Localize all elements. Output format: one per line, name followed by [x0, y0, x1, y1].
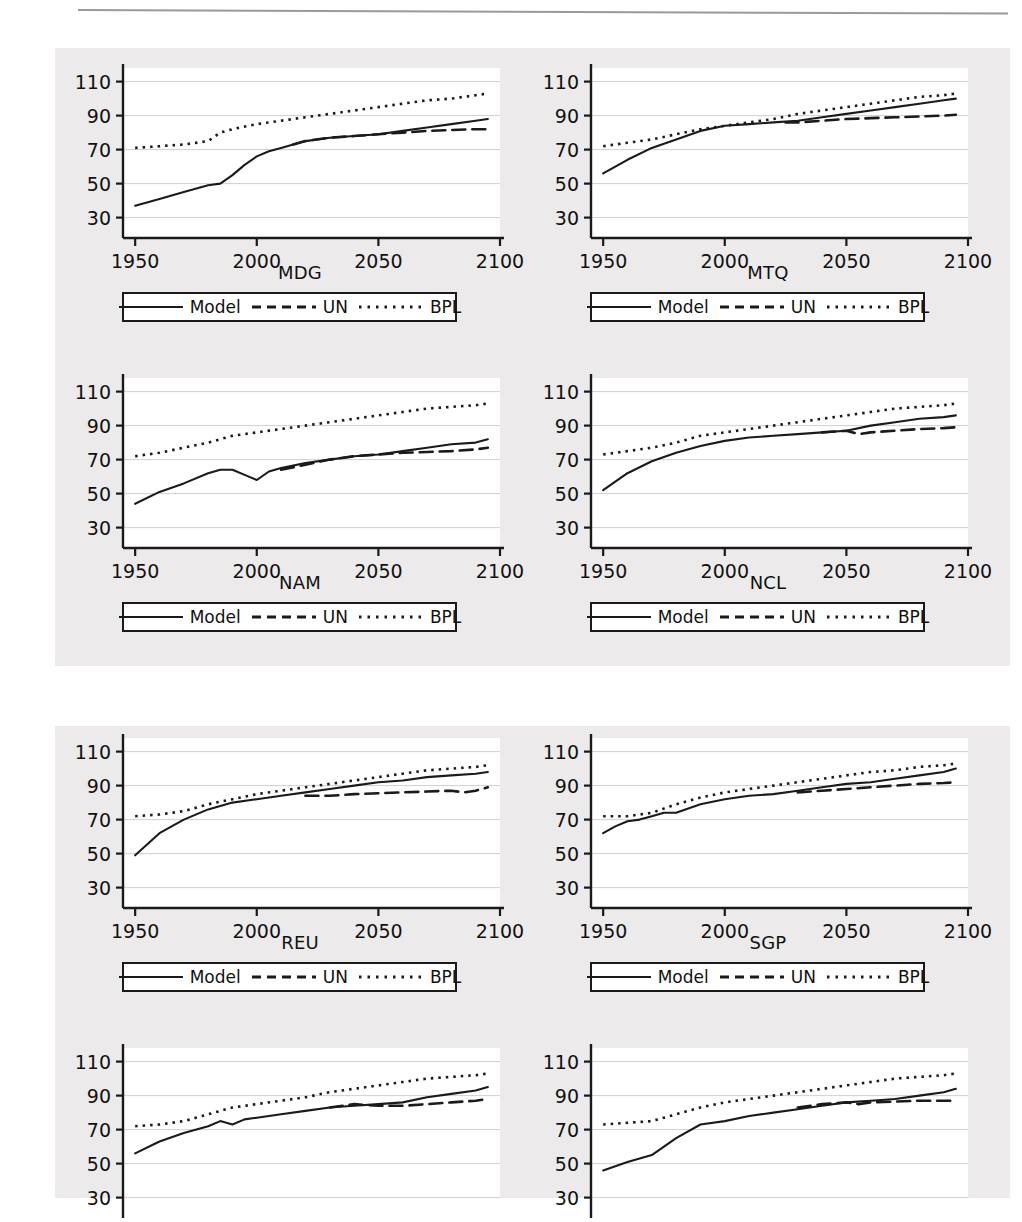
- page-header-rule: [78, 9, 1008, 15]
- legend-entry-bpl: BPL: [821, 969, 934, 986]
- legend-entry-un: UN: [714, 969, 821, 986]
- y-tick-label: 90: [555, 1086, 579, 1105]
- dotted-line-swatch: [358, 301, 424, 313]
- y-tick-label: 110: [543, 1052, 579, 1071]
- legend-label: BPL: [430, 299, 461, 316]
- y-tick-label: 110: [543, 382, 579, 401]
- y-tick-label: 90: [555, 416, 579, 435]
- figure-group-top: 110907050301950200020502100MDGModelUNBPL…: [55, 48, 1010, 666]
- y-tick-label: 90: [87, 1086, 111, 1105]
- legend-label: BPL: [898, 969, 929, 986]
- chart-legend: ModelUNBPL: [122, 292, 457, 322]
- y-tick-label: 110: [75, 1052, 111, 1071]
- solid-line-swatch: [586, 971, 652, 983]
- y-tick-label: 70: [555, 810, 579, 829]
- legend-label: Model: [190, 969, 241, 986]
- legend-entry-bpl: BPL: [353, 299, 466, 316]
- y-tick-label: 30: [555, 878, 579, 897]
- y-tick-label: 70: [555, 140, 579, 159]
- chart-legend: ModelUNBPL: [122, 602, 457, 632]
- legend-label: UN: [791, 969, 816, 986]
- chart-panel-mtq: 110907050301950200020502100MTQModelUNBPL: [533, 60, 1003, 308]
- y-tick-label: 50: [87, 1154, 111, 1173]
- chart-legend: ModelUNBPL: [122, 962, 457, 992]
- x-axis-tick-labels: 1950200020502100: [533, 548, 1003, 572]
- y-tick-label: 70: [555, 1120, 579, 1139]
- solid-line-swatch: [118, 301, 184, 313]
- dotted-line-swatch: [358, 971, 424, 983]
- legend-label: BPL: [898, 609, 929, 626]
- y-tick-label: 30: [87, 518, 111, 537]
- legend-entry-model: Model: [113, 969, 246, 986]
- y-tick-label: 30: [555, 518, 579, 537]
- x-axis-tick-labels: 1950200020502100: [65, 908, 535, 932]
- x-axis-tick-labels: 1950200020502100: [65, 548, 535, 572]
- legend-label: BPL: [430, 969, 461, 986]
- legend-entry-model: Model: [113, 299, 246, 316]
- panel-title: NCL: [533, 572, 1003, 593]
- legend-label: UN: [323, 609, 348, 626]
- dotted-line-swatch: [826, 611, 892, 623]
- legend-label: Model: [190, 609, 241, 626]
- x-axis-tick-labels: 1950200020502100: [533, 908, 1003, 932]
- y-axis-tick-labels: 11090705030: [65, 730, 535, 935]
- legend-entry-model: Model: [581, 609, 714, 626]
- dotted-line-swatch: [826, 971, 892, 983]
- legend-label: Model: [658, 609, 709, 626]
- dashed-line-swatch: [251, 971, 317, 983]
- y-tick-label: 90: [87, 776, 111, 795]
- chart-panel-sgp: 110907050301950200020502100SGPModelUNBPL: [533, 730, 1003, 978]
- legend-entry-model: Model: [581, 299, 714, 316]
- solid-line-swatch: [118, 611, 184, 623]
- panel-title: NAM: [65, 572, 535, 593]
- y-tick-label: 110: [75, 742, 111, 761]
- y-tick-label: 50: [555, 174, 579, 193]
- legend-label: UN: [791, 609, 816, 626]
- panel-title: REU: [65, 932, 535, 953]
- x-axis-tick-labels: 1950200020502100: [533, 238, 1003, 262]
- y-axis-tick-labels: 11090705030: [65, 60, 535, 265]
- y-tick-label: 70: [87, 450, 111, 469]
- panel-title: MTQ: [533, 262, 1003, 283]
- legend-entry-un: UN: [714, 299, 821, 316]
- y-tick-label: 50: [555, 1154, 579, 1173]
- y-tick-label: 50: [87, 844, 111, 863]
- legend-entry-bpl: BPL: [353, 609, 466, 626]
- x-axis-tick-labels: 1950200020502100: [65, 238, 535, 262]
- y-tick-label: 110: [543, 742, 579, 761]
- y-axis-tick-labels: 11090705030: [533, 370, 1003, 575]
- dotted-line-swatch: [826, 301, 892, 313]
- y-tick-label: 90: [87, 106, 111, 125]
- chart-panel-clipped: 11090705030: [65, 1040, 535, 1222]
- y-tick-label: 50: [555, 844, 579, 863]
- y-tick-label: 70: [87, 1120, 111, 1139]
- chart-panel-clipped: 11090705030: [533, 1040, 1003, 1222]
- legend-label: BPL: [898, 299, 929, 316]
- legend-label: Model: [658, 969, 709, 986]
- chart-panel-nam: 110907050301950200020502100NAMModelUNBPL: [65, 370, 535, 618]
- y-tick-label: 50: [555, 484, 579, 503]
- solid-line-swatch: [586, 611, 652, 623]
- y-tick-label: 70: [87, 140, 111, 159]
- legend-entry-model: Model: [113, 609, 246, 626]
- y-tick-label: 30: [87, 208, 111, 227]
- solid-line-swatch: [118, 971, 184, 983]
- chart-legend: ModelUNBPL: [590, 962, 925, 992]
- dotted-line-swatch: [358, 611, 424, 623]
- y-tick-label: 90: [555, 776, 579, 795]
- solid-line-swatch: [586, 301, 652, 313]
- y-axis-tick-labels: 11090705030: [65, 370, 535, 575]
- legend-entry-un: UN: [246, 299, 353, 316]
- y-tick-label: 110: [543, 72, 579, 91]
- y-tick-label: 110: [75, 382, 111, 401]
- chart-panel-mdg: 110907050301950200020502100MDGModelUNBPL: [65, 60, 535, 308]
- dashed-line-swatch: [719, 611, 785, 623]
- y-tick-label: 90: [555, 106, 579, 125]
- legend-entry-un: UN: [246, 969, 353, 986]
- figure-group-bottom: 110907050301950200020502100REUModelUNBPL…: [55, 726, 1010, 1198]
- y-axis-tick-labels: 11090705030: [533, 60, 1003, 265]
- y-tick-label: 70: [87, 810, 111, 829]
- dashed-line-swatch: [251, 611, 317, 623]
- dashed-line-swatch: [251, 301, 317, 313]
- chart-legend: ModelUNBPL: [590, 602, 925, 632]
